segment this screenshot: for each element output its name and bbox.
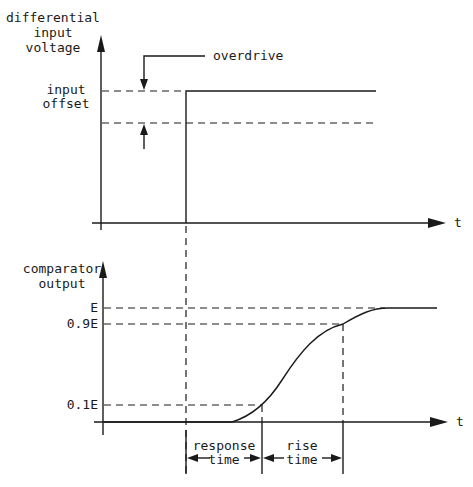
response-label-line1: response (193, 438, 256, 453)
overdrive-down-arrow-icon (140, 79, 148, 90)
y-axis-label-line2: input (33, 25, 72, 40)
y-axis-label-line3: voltage (26, 40, 81, 55)
output-y-label-line2: output (39, 276, 86, 291)
bottom-panel: comparator output t E 0.9E 0.1E response… (23, 261, 464, 474)
comparator-timing-diagram: differential input voltage t input offse… (0, 0, 473, 487)
y-axis-label-line1: differential (6, 10, 100, 25)
input-offset-label-line1: input (46, 82, 85, 97)
level-0.9E-label: 0.9E (67, 316, 98, 331)
rise-right-arrow-icon (331, 454, 342, 462)
input-step-signal (186, 91, 376, 223)
top-y-axis-arrow-icon (97, 35, 105, 52)
response-label-line2: time (208, 452, 239, 467)
top-panel: differential input voltage t input offse… (6, 10, 462, 230)
input-offset-label-line2: offset (43, 96, 90, 111)
response-left-arrow-icon (187, 454, 198, 462)
rise-label-line1: rise (286, 438, 317, 453)
bottom-x-axis-arrow-icon (430, 417, 448, 427)
bottom-x-axis-label: t (456, 414, 464, 429)
rise-label-line2: time (286, 452, 317, 467)
rise-left-arrow-icon (263, 454, 274, 462)
overdrive-up-arrow-icon (140, 124, 148, 135)
top-x-axis-label: t (454, 215, 462, 230)
top-x-axis-arrow-icon (428, 218, 446, 228)
level-E-label: E (90, 300, 98, 315)
overdrive-leader-line (144, 56, 205, 80)
level-0.1E-label: 0.1E (67, 397, 98, 412)
output-y-label-line1: comparator (23, 261, 101, 276)
overdrive-label: overdrive (213, 48, 284, 63)
response-right-arrow-icon (250, 454, 261, 462)
